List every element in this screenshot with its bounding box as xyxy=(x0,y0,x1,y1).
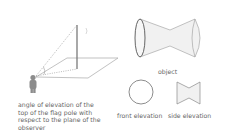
flag-pole-illustration xyxy=(30,25,119,93)
angle-marker-icon xyxy=(86,28,87,34)
caption-line: observer xyxy=(18,124,108,132)
side-elevation-label: side elevation xyxy=(168,112,211,120)
line-of-sight-to-base xyxy=(36,69,77,76)
observer-icon xyxy=(30,75,37,93)
object-illustration xyxy=(135,19,200,57)
front-elevation-label: front elevation xyxy=(117,112,162,120)
object-body xyxy=(140,19,200,57)
caption-line: respect to the plane of the xyxy=(18,116,108,124)
object-label: object xyxy=(158,68,177,76)
line-of-sight-to-top xyxy=(36,25,77,76)
angle-arc xyxy=(44,67,45,75)
object-left-face xyxy=(135,19,145,57)
front-elevation-circle xyxy=(129,80,153,104)
caption-line: top of the flag pole with xyxy=(18,109,108,117)
flag-pole-caption: angle of elevation of the top of the fla… xyxy=(18,101,108,131)
side-elevation-bowtie xyxy=(177,82,200,104)
caption-line: angle of elevation of the xyxy=(18,101,108,109)
